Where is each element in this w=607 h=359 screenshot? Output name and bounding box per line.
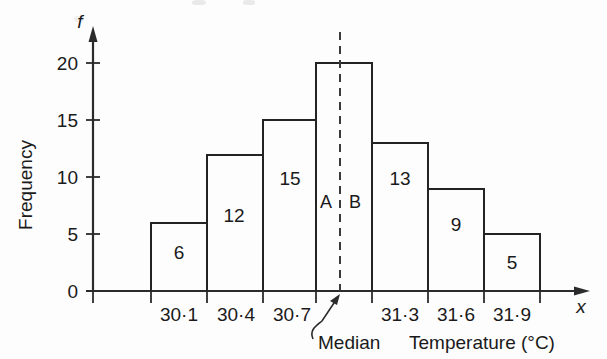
bar-31-3 bbox=[372, 143, 428, 291]
x-axis-title: Temperature (°C) bbox=[409, 332, 555, 353]
bar-value-31-3: 13 bbox=[389, 168, 410, 189]
y-axis-symbol: f bbox=[77, 11, 84, 32]
x-tick-group bbox=[93, 291, 540, 303]
y-axis-title: Frequency bbox=[15, 140, 36, 230]
bar-value-30-7: 15 bbox=[279, 168, 300, 189]
x-tick-label-30-7: 30·7 bbox=[273, 304, 311, 325]
y-tick-label-5: 5 bbox=[67, 224, 78, 245]
bar-value-group: 6 12 15 13 9 5 bbox=[174, 168, 518, 273]
bar-31-0 bbox=[316, 63, 372, 291]
x-tick-label-group: 30·1 30·4 30·7 31·3 31·6 31·9 bbox=[160, 304, 531, 325]
y-axis-group: f bbox=[77, 11, 97, 292]
median-leader-arrowhead bbox=[330, 294, 340, 305]
bar-value-31-9: 5 bbox=[507, 252, 518, 273]
x-axis-symbol: x bbox=[575, 296, 587, 317]
y-tick-label-10: 10 bbox=[57, 167, 78, 188]
y-tick-label-15: 15 bbox=[57, 110, 78, 131]
x-tick-label-30-1: 30·1 bbox=[160, 304, 198, 325]
x-tick-label-31-6: 31·6 bbox=[437, 304, 475, 325]
region-label-a: A bbox=[320, 192, 332, 212]
bar-value-31-6: 9 bbox=[451, 214, 462, 235]
bar-31-6 bbox=[428, 189, 484, 291]
y-tick-label-0: 0 bbox=[67, 281, 78, 302]
bar-30-7 bbox=[263, 120, 316, 291]
histogram-figure: f x 0 5 10 15 20 Frequency bbox=[0, 0, 607, 359]
x-axis-arrowhead bbox=[574, 287, 590, 296]
bar-value-30-1: 6 bbox=[174, 242, 185, 263]
x-tick-label-30-4: 30·4 bbox=[217, 304, 255, 325]
y-axis-arrowhead bbox=[89, 26, 98, 42]
region-label-b: B bbox=[349, 192, 361, 212]
median-callout: Median bbox=[312, 294, 381, 353]
y-tick-label-20: 20 bbox=[57, 53, 78, 74]
histogram-canvas: f x 0 5 10 15 20 Frequency bbox=[0, 0, 607, 359]
bars-group bbox=[151, 63, 540, 291]
x-tick-label-31-3: 31·3 bbox=[381, 304, 419, 325]
median-label: Median bbox=[318, 332, 380, 353]
x-tick-label-31-9: 31·9 bbox=[493, 304, 531, 325]
bar-value-30-4: 12 bbox=[223, 205, 244, 226]
